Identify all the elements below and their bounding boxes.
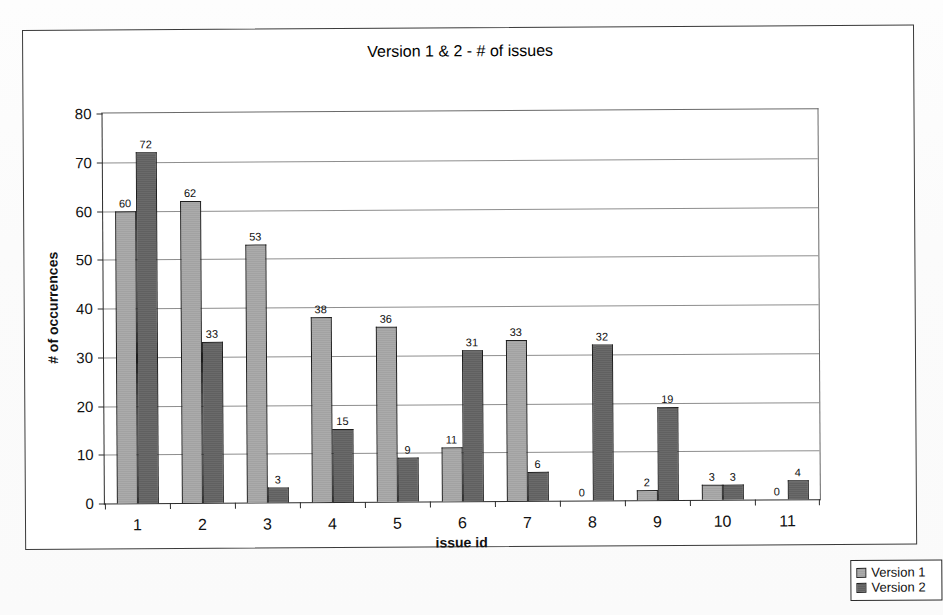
x-tick-mark [170,503,171,509]
bar-pair: 3815 [298,112,365,502]
x-tick-label: 11 [779,512,796,530]
bar-version-1-9[interactable]: 2 [636,490,657,500]
bar-group: 0328 [558,110,625,500]
bar-pair: 533 [233,112,300,502]
y-tick-label: 70 [75,154,92,171]
bar-value-label: 60 [119,197,131,209]
x-tick-label: 9 [653,513,662,531]
x-tick-mark [819,499,820,505]
bar-value-label: 6 [535,458,541,470]
x-tick-label: 1 [133,516,142,534]
bar-group: 3310 [688,110,755,500]
bar-pair: 6072 [103,113,170,503]
x-tick-label: 6 [458,514,467,532]
bar-version-1-10[interactable]: 3 [701,485,722,500]
bar-value-label: 0 [774,485,780,497]
bar-value-label: 31 [466,336,478,348]
bar-value-label: 3 [730,471,736,483]
x-tick-label: 10 [714,513,732,531]
series-2-swatch [856,582,866,592]
x-tick-label: 7 [523,514,532,532]
bar-group: 62332 [168,113,235,503]
x-tick-mark [235,503,236,509]
x-tick-mark [430,502,431,508]
bar-pair: 336 [493,111,560,501]
bar-value-label: 36 [380,312,392,324]
bar-version-2-9[interactable]: 19 [657,407,679,500]
bar-groups: 6072162332533338154369511316336703282199… [103,109,820,503]
series-1-swatch [856,567,866,577]
bar-value-label: 15 [336,415,348,427]
bar-value-label: 38 [315,303,327,315]
bar-pair: 04 [752,109,819,499]
y-tick-label: 30 [76,349,93,366]
bar-value-label: 4 [795,466,801,478]
legend-item-label: Version 2 [871,580,925,593]
bar-version-1-2[interactable]: 62 [180,201,203,503]
bar-value-label: 2 [644,476,650,488]
bar-version-2-1[interactable]: 72 [135,152,158,503]
legend-item[interactable]: Version 2 [856,579,936,594]
bar-value-label: 3 [275,474,281,486]
y-tick-label: 40 [76,300,93,317]
plot-area: 01020304050607080 6072162332533338154369… [102,108,821,504]
bar-version-2-3[interactable]: 3 [267,488,288,503]
bar-group: 5333 [233,112,300,502]
x-tick-mark [690,500,691,506]
bar-version-2-5[interactable]: 9 [397,458,418,502]
bar-version-1-4[interactable]: 38 [310,317,332,502]
bar-value-label: 19 [661,393,673,405]
legend-item[interactable]: Version 1 [856,564,936,579]
chart-legend: Version 1Version 2 [850,559,942,601]
bar-value-label: 3 [709,471,715,483]
x-tick-mark [495,501,496,507]
bar-pair: 369 [363,112,430,502]
bar-pair: 1131 [428,111,495,501]
bar-version-1-7[interactable]: 33 [505,340,527,501]
x-tick-label: 5 [393,515,402,533]
bar-value-label: 62 [184,187,196,199]
x-tick-mark [300,502,301,508]
bar-pair: 33 [688,110,755,500]
chart-title: Version 1 & 2 - # of issues [101,40,819,62]
x-tick-label: 3 [263,515,272,533]
bar-version-2-10[interactable]: 3 [722,485,743,500]
chart-title-container: Version 1 & 2 - # of issues [101,40,819,62]
bar-version-1-3[interactable]: 53 [245,244,268,502]
bar-group: 2199 [623,110,690,500]
bar-version-2-8[interactable]: 32 [591,344,613,500]
bar-value-label: 32 [596,330,608,342]
bar-version-1-6[interactable]: 11 [441,448,462,502]
bar-value-label: 11 [446,434,457,446]
x-tick-mark [365,502,366,508]
x-tick-mark [625,500,626,506]
bar-group: 11316 [428,111,495,501]
bar-version-2-6[interactable]: 31 [461,350,483,501]
bar-version-1-1[interactable]: 60 [115,211,138,504]
bar-pair: 219 [623,110,690,500]
x-tick-label: 8 [588,513,597,531]
y-tick-label: 80 [75,105,92,122]
bar-value-label: 53 [249,230,261,242]
bar-group: 38154 [298,112,365,502]
bar-pair: 032 [558,110,625,500]
bar-version-2-2[interactable]: 33 [201,342,223,503]
y-tick-label: 20 [77,398,94,415]
y-axis-title-label: # of occurrences [44,252,61,364]
bar-pair: 6233 [168,113,235,503]
chart-object-frame: Version 1 & 2 - # of issues # of occurre… [22,25,917,550]
bar-version-1-5[interactable]: 36 [375,326,397,502]
bar-value-label: 33 [510,326,522,338]
y-tick-label: 0 [85,495,93,512]
y-axis-title: # of occurrences [42,113,64,503]
bar-version-2-11[interactable]: 4 [787,480,808,500]
y-tick-label: 60 [75,203,92,220]
y-tick-label: 50 [76,251,93,268]
legend-item-label: Version 1 [871,565,925,578]
bar-version-2-7[interactable]: 6 [527,472,548,501]
bar-version-2-4[interactable]: 15 [332,429,353,502]
bar-value-label: 33 [206,328,218,340]
x-tick-label: 4 [328,515,337,533]
bar-value-label: 0 [579,487,585,499]
bar-group: 60721 [103,113,170,503]
